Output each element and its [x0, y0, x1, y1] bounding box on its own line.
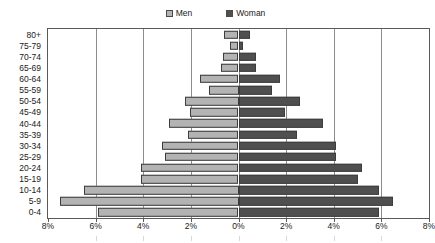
bar-woman-35-39[interactable]	[239, 130, 297, 138]
x-axis-subtick-5	[286, 236, 287, 241]
y-axis-label-0-4: 0-4	[29, 208, 41, 217]
bar-men-45-49[interactable]	[190, 108, 239, 116]
y-axis-label-10-14: 10-14	[19, 186, 41, 195]
y-axis-label-65-69: 65-69	[19, 64, 41, 73]
bar-row	[48, 85, 429, 96]
bar-row	[48, 129, 429, 140]
y-axis-label-25-29: 25-29	[19, 153, 41, 162]
x-axis-subtick-3	[191, 236, 192, 241]
y-axis-label-60-64: 60-64	[19, 75, 41, 84]
bar-men-40-44[interactable]	[169, 119, 238, 127]
legend-swatch-men-icon	[166, 10, 173, 17]
bar-woman-0-4[interactable]	[239, 208, 379, 216]
y-axis-label-45-49: 45-49	[19, 108, 41, 117]
bar-row	[48, 207, 429, 218]
bar-men-60-64[interactable]	[200, 75, 238, 83]
y-axis-label-50-54: 50-54	[19, 97, 41, 106]
x-axis-label-3: 2%	[185, 222, 197, 231]
x-axis-label-6: 4%	[328, 222, 340, 231]
bar-men-25-29[interactable]	[165, 153, 239, 161]
bar-row	[48, 62, 429, 73]
bar-men-65-69[interactable]	[221, 64, 238, 72]
bar-men-35-39[interactable]	[188, 130, 238, 138]
legend-label-men: Men	[176, 9, 193, 18]
bar-row	[48, 196, 429, 207]
x-axis-label-1: 6%	[89, 222, 101, 231]
y-axis-label-20-24: 20-24	[19, 164, 41, 173]
bar-row	[48, 151, 429, 162]
x-axis-subtick-2	[143, 236, 144, 241]
bar-woman-10-14[interactable]	[239, 186, 379, 194]
bar-woman-20-24[interactable]	[239, 164, 363, 172]
x-axis-labels: 8%6%4%2%0%2%4%6%8%	[47, 222, 430, 236]
y-axis-label-40-44: 40-44	[19, 119, 41, 128]
bar-row	[48, 174, 429, 185]
bar-men-15-19[interactable]	[141, 175, 239, 183]
bar-woman-40-44[interactable]	[239, 119, 324, 127]
bar-woman-50-54[interactable]	[239, 97, 301, 105]
y-axis-label-55-59: 55-59	[19, 86, 41, 95]
bar-men-75-79[interactable]	[230, 41, 238, 49]
bar-woman-25-29[interactable]	[239, 153, 337, 161]
bar-woman-60-64[interactable]	[239, 75, 281, 83]
legend-item-men[interactable]: Men	[166, 9, 193, 18]
bar-men-50-54[interactable]	[185, 97, 239, 105]
legend-swatch-woman-icon	[226, 10, 233, 17]
bar-row	[48, 73, 429, 84]
bar-men-0-4[interactable]	[98, 208, 238, 216]
bar-woman-75-79[interactable]	[239, 41, 244, 49]
y-axis-label-75-79: 75-79	[19, 41, 41, 50]
bar-woman-45-49[interactable]	[239, 108, 285, 116]
bar-woman-15-19[interactable]	[239, 175, 358, 183]
bar-woman-5-9[interactable]	[239, 197, 394, 205]
chart-legend: Men Woman	[0, 6, 431, 20]
bar-row	[48, 162, 429, 173]
x-axis-label-0: 8%	[42, 222, 54, 231]
legend-item-woman[interactable]: Woman	[226, 9, 265, 18]
y-axis-label-70-74: 70-74	[19, 53, 41, 62]
bar-men-20-24[interactable]	[141, 164, 239, 172]
y-axis-label-80+: 80+	[27, 30, 41, 39]
x-axis-label-5: 2%	[280, 222, 292, 231]
x-axis-label-8: 8%	[423, 222, 435, 231]
bar-woman-30-34[interactable]	[239, 142, 337, 150]
bar-men-10-14[interactable]	[84, 186, 239, 194]
bar-row	[48, 107, 429, 118]
bar-row	[48, 29, 429, 40]
y-axis-labels: 80+75-7970-7465-6960-6455-5950-5445-4940…	[0, 28, 44, 219]
bar-row	[48, 140, 429, 151]
bar-woman-55-59[interactable]	[239, 86, 272, 94]
x-axis-label-2: 4%	[137, 222, 149, 231]
y-axis-label-30-34: 30-34	[19, 141, 41, 150]
bar-men-70-74[interactable]	[223, 53, 239, 61]
bar-woman-65-69[interactable]	[239, 64, 257, 72]
bar-row	[48, 185, 429, 196]
y-axis-label-35-39: 35-39	[19, 130, 41, 139]
bar-row	[48, 40, 429, 51]
x-axis-subtick-7	[381, 236, 382, 241]
plot-area	[47, 28, 430, 219]
x-axis-subtick-4	[239, 236, 240, 241]
bar-woman-80+[interactable]	[239, 30, 251, 38]
bar-row	[48, 118, 429, 129]
x-axis-label-4: 0%	[232, 222, 244, 231]
bar-men-55-59[interactable]	[209, 86, 239, 94]
x-axis-label-7: 6%	[375, 222, 387, 231]
bar-woman-70-74[interactable]	[239, 53, 257, 61]
x-axis-subtick-6	[334, 236, 335, 241]
bar-row	[48, 96, 429, 107]
bar-men-5-9[interactable]	[60, 197, 239, 205]
bar-rows	[48, 29, 429, 218]
y-axis-label-5-9: 5-9	[29, 197, 41, 206]
y-axis-label-15-19: 15-19	[19, 175, 41, 184]
x-axis-subtick-1	[96, 236, 97, 241]
bar-row	[48, 51, 429, 62]
legend-label-woman: Woman	[236, 9, 265, 18]
bar-men-80+[interactable]	[224, 30, 238, 38]
bar-men-30-34[interactable]	[162, 142, 238, 150]
